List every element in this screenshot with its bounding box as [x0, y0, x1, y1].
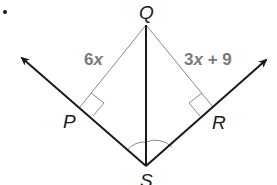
- label-p: P: [63, 111, 76, 132]
- angle-arc-psq: [127, 142, 146, 150]
- bullet-dot: [3, 10, 7, 14]
- ray-sp: [22, 58, 146, 166]
- label-r: R: [212, 112, 226, 133]
- expression-qr: 3x + 9: [184, 50, 232, 69]
- right-angle-mark-p: [91, 93, 104, 116]
- expression-qp: 6x: [84, 50, 104, 69]
- expression-qp-coef: 6: [84, 50, 93, 69]
- label-q: Q: [139, 2, 154, 23]
- expression-qr-coef: 3: [184, 50, 193, 69]
- label-s: S: [140, 170, 153, 185]
- ray-sr: [146, 60, 266, 166]
- angle-bisector-diagram: Q P R S 6x 3x + 9: [0, 0, 277, 185]
- expression-qp-var: x: [92, 50, 104, 69]
- expression-qr-rest: + 9: [203, 50, 232, 69]
- right-angle-mark-r: [189, 93, 202, 116]
